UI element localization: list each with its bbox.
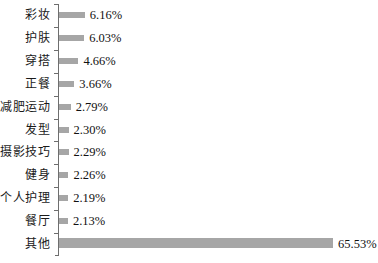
- y-axis-tick: [54, 187, 59, 188]
- category-label: 正餐: [0, 73, 50, 95]
- category-label: 穿搭: [0, 50, 50, 72]
- y-axis-tick: [54, 210, 59, 211]
- bar-row: 正餐3.66%: [0, 73, 378, 95]
- bar-row: 穿搭4.66%: [0, 50, 378, 72]
- bar: [59, 35, 84, 41]
- category-label: 护肤: [0, 27, 50, 49]
- bar-row: 餐厅2.13%: [0, 210, 378, 232]
- bar: [59, 149, 69, 155]
- value-label: 2.26%: [73, 164, 105, 186]
- category-label: 发型: [0, 119, 50, 141]
- bar: [59, 58, 78, 64]
- bar-row: 减肥运动2.79%: [0, 96, 378, 118]
- y-axis-tick: [54, 96, 59, 97]
- y-axis-tick: [54, 50, 59, 51]
- bar-row: 健身2.26%: [0, 164, 378, 186]
- value-label: 3.66%: [79, 73, 111, 95]
- y-axis-tick: [54, 73, 59, 74]
- category-label: 其他: [0, 233, 50, 255]
- y-axis-tick: [54, 164, 59, 165]
- category-label: 餐厅: [0, 210, 50, 232]
- y-axis-bottom-cap: [55, 255, 59, 256]
- y-axis-tick: [54, 4, 59, 5]
- bar-row: 发型2.30%: [0, 119, 378, 141]
- category-label: 个人护理: [0, 187, 50, 209]
- bar: [59, 104, 71, 110]
- bar-chart: 彩妆6.16%护肤6.03%穿搭4.66%正餐3.66%减肥运动2.79%发型2…: [0, 0, 378, 263]
- category-label: 彩妆: [0, 4, 50, 26]
- category-label: 摄影技巧: [0, 141, 50, 163]
- bar-row: 其他65.53%: [0, 233, 378, 255]
- bar-row: 摄影技巧2.29%: [0, 141, 378, 163]
- y-axis-tick: [54, 141, 59, 142]
- bar-row: 护肤6.03%: [0, 27, 378, 49]
- value-label: 2.29%: [74, 141, 106, 163]
- bar: [59, 195, 68, 201]
- value-label: 4.66%: [83, 50, 115, 72]
- value-label: 6.03%: [89, 27, 121, 49]
- value-label: 2.79%: [76, 96, 108, 118]
- bar: [59, 81, 74, 87]
- bar: [59, 12, 85, 18]
- category-label: 健身: [0, 164, 50, 186]
- bar: [59, 218, 68, 224]
- plot-area: 彩妆6.16%护肤6.03%穿搭4.66%正餐3.66%减肥运动2.79%发型2…: [0, 0, 378, 263]
- category-label: 减肥运动: [0, 96, 50, 118]
- y-axis-tick: [54, 119, 59, 120]
- bar-row: 彩妆6.16%: [0, 4, 378, 26]
- value-label: 65.53%: [338, 233, 377, 255]
- bar: [59, 172, 68, 178]
- bar: [59, 238, 333, 248]
- y-axis-tick: [54, 27, 59, 28]
- value-label: 2.13%: [73, 210, 105, 232]
- bar-row: 个人护理2.19%: [0, 187, 378, 209]
- value-label: 6.16%: [90, 4, 122, 26]
- value-label: 2.19%: [73, 187, 105, 209]
- value-label: 2.30%: [74, 119, 106, 141]
- y-axis-tick: [54, 233, 59, 234]
- bar: [59, 127, 69, 133]
